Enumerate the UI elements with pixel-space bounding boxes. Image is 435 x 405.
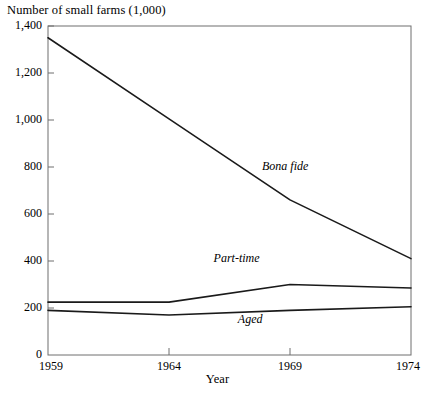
x-axis-title: Year: [0, 372, 435, 387]
y-tick-label: 1,400: [0, 18, 42, 33]
series-label-bona-fide: Bona fide: [262, 159, 308, 174]
y-tick-label: 1,200: [0, 65, 42, 80]
x-axis-ticks: [169, 348, 290, 355]
plot-border: [48, 26, 411, 355]
series-label-aged: Aged: [238, 312, 263, 327]
y-tick-label: 800: [0, 159, 42, 174]
series-label-part-time: Part-time: [214, 251, 260, 266]
data-series-lines: [48, 38, 411, 315]
axes-frame: [48, 26, 411, 355]
line-chart: Number of small farms (1,000) 0200400600…: [0, 0, 435, 405]
series-line-bona-fide: [48, 38, 411, 259]
plot-area: [0, 0, 435, 405]
y-tick-label: 200: [0, 300, 42, 315]
series-line-aged: [48, 307, 411, 315]
y-tick-label: 600: [0, 206, 42, 221]
y-tick-label: 1,000: [0, 112, 42, 127]
series-line-part-time: [48, 285, 411, 303]
y-tick-label: 400: [0, 253, 42, 268]
y-axis-ticks: [48, 26, 54, 308]
